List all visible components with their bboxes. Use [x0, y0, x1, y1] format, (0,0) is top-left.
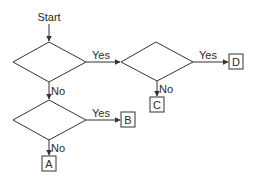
decision-2-no-label: No [159, 83, 173, 95]
decision-3-no-label: No [51, 142, 65, 154]
start-label: Start [37, 11, 60, 23]
flowchart: Start Yes No Yes D No C Yes B No A [0, 0, 259, 182]
decision-2 [121, 42, 193, 81]
decision-1-yes-label: Yes [92, 49, 110, 61]
outcome-label-b: B [124, 114, 131, 126]
decision-3 [13, 100, 86, 140]
outcome-label-d: D [232, 56, 240, 68]
decision-1 [13, 42, 86, 82]
decision-1-no-label: No [51, 85, 65, 97]
outcome-label-a: A [45, 158, 53, 170]
decision-3-yes-label: Yes [92, 107, 110, 119]
decision-2-yes-label: Yes [199, 49, 217, 61]
outcome-label-c: C [153, 99, 161, 111]
